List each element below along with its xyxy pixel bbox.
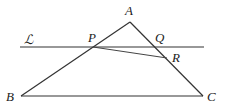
segment-ac xyxy=(130,22,203,96)
label-r: R xyxy=(171,50,180,65)
label-a: A xyxy=(124,3,133,18)
segment-ab xyxy=(21,22,130,96)
label-q: Q xyxy=(155,30,165,45)
triangle-diagram: A B C P Q R ℒ xyxy=(0,0,229,108)
label-p: P xyxy=(87,30,96,45)
label-line-l: ℒ xyxy=(24,32,34,47)
label-b: B xyxy=(6,89,14,104)
label-c: C xyxy=(207,89,216,104)
